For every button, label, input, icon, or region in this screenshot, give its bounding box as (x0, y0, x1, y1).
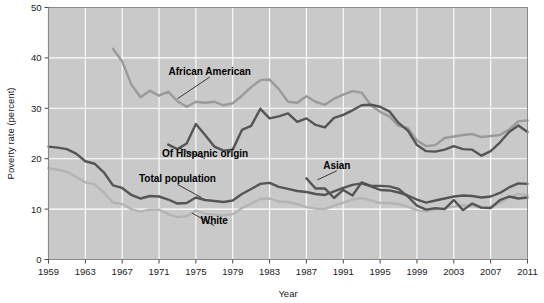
x-tick-label-1971: 1971 (148, 266, 169, 277)
series-label-total-population: Total population (139, 173, 216, 184)
x-tick-label-1991: 1991 (333, 266, 354, 277)
x-tick-label-1967: 1967 (112, 266, 133, 277)
y-tick-label-10: 10 (31, 204, 42, 215)
x-tick-label-1995: 1995 (370, 266, 391, 277)
x-tick-label-1979: 1979 (222, 266, 243, 277)
y-tick-label-20: 20 (31, 153, 42, 164)
series-label-asian: Asian (323, 160, 350, 171)
x-axis-title: Year (278, 288, 297, 299)
series-label-of-hispanic-origin: Of Hispanic origin (162, 148, 248, 159)
x-tick-label-1987: 1987 (296, 266, 317, 277)
plot-area-rect (49, 8, 528, 260)
x-tick-label-1963: 1963 (75, 266, 96, 277)
x-tick-label-1959: 1959 (38, 266, 59, 277)
y-axis-title: Poverty rate (percent) (5, 88, 16, 180)
x-tick-label-2003: 2003 (443, 266, 464, 277)
x-tick-label-2011: 2011 (517, 266, 537, 277)
x-tick-label-1999: 1999 (406, 266, 427, 277)
plot-background (49, 8, 528, 260)
y-tick-label-30: 30 (31, 103, 42, 114)
y-tick-label-40: 40 (31, 52, 42, 63)
x-tick-label-1975: 1975 (185, 266, 206, 277)
y-tick-label-0: 0 (36, 254, 41, 265)
series-label-african-american: African American (168, 66, 250, 77)
series-label-white: White (201, 215, 229, 226)
poverty-rate-line-chart: 0102030405019591963196719711975197919831… (0, 0, 544, 303)
y-tick-label-50: 50 (31, 2, 42, 13)
x-tick-label-1983: 1983 (259, 266, 280, 277)
x-tick-label-2007: 2007 (480, 266, 501, 277)
chart-canvas: 0102030405019591963196719711975197919831… (0, 0, 544, 303)
